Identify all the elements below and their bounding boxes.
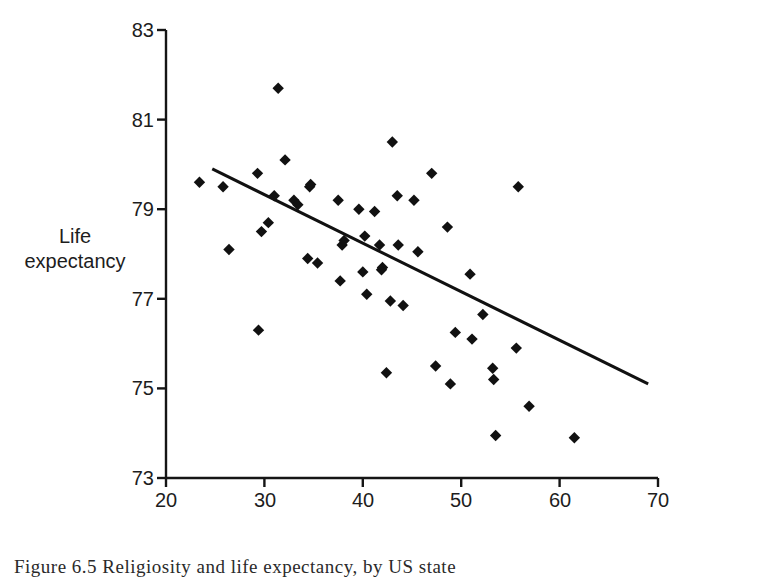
data-point-marker	[569, 432, 580, 443]
data-point-marker	[263, 217, 274, 228]
data-point-marker	[464, 268, 475, 279]
data-point-marker	[387, 136, 398, 147]
data-point-marker	[430, 360, 441, 371]
data-point-marker	[450, 327, 461, 338]
data-point-marker	[523, 401, 534, 412]
data-point-marker	[223, 244, 234, 255]
data-point-marker	[393, 239, 404, 250]
data-point-marker	[256, 226, 267, 237]
data-point-marker	[279, 154, 290, 165]
data-point-marker	[392, 190, 403, 201]
data-point-marker	[253, 324, 264, 335]
data-point-marker	[361, 289, 372, 300]
data-point-marker	[269, 190, 280, 201]
axes	[166, 30, 658, 478]
data-point-marker	[513, 181, 524, 192]
figure-container: Life expectancy 83 81 79 77 75 73 20 30 …	[0, 0, 769, 577]
data-point-marker	[466, 333, 477, 344]
data-point-marker	[353, 204, 364, 215]
data-point-marker	[426, 168, 437, 179]
data-point-marker	[252, 168, 263, 179]
data-point-marker	[412, 246, 423, 257]
data-point-marker	[333, 195, 344, 206]
data-point-marker	[312, 257, 323, 268]
data-point-marker	[302, 253, 313, 264]
data-point-marker	[217, 181, 228, 192]
data-point-marker	[334, 275, 345, 286]
data-point-marker	[442, 221, 453, 232]
data-point-marker	[381, 367, 392, 378]
data-point-marker	[488, 374, 499, 385]
data-point-marker	[385, 295, 396, 306]
data-points	[194, 83, 580, 444]
data-point-marker	[477, 309, 488, 320]
trend-line	[212, 169, 648, 384]
data-point-marker	[194, 177, 205, 188]
data-point-marker	[359, 230, 370, 241]
data-point-marker	[487, 363, 498, 374]
data-point-marker	[357, 266, 368, 277]
data-point-marker	[397, 300, 408, 311]
scatter-plot	[0, 0, 769, 577]
data-point-marker	[369, 206, 380, 217]
regression-line	[212, 169, 648, 384]
figure-caption-text: Figure 6.5 Religiosity and life expectan…	[14, 556, 456, 577]
data-point-marker	[445, 378, 456, 389]
data-point-marker	[490, 430, 501, 441]
figure-caption: Figure 6.5 Religiosity and life expectan…	[14, 556, 754, 577]
data-point-marker	[272, 83, 283, 94]
data-point-marker	[511, 342, 522, 353]
data-point-marker	[408, 195, 419, 206]
axis-ticks	[157, 30, 658, 487]
